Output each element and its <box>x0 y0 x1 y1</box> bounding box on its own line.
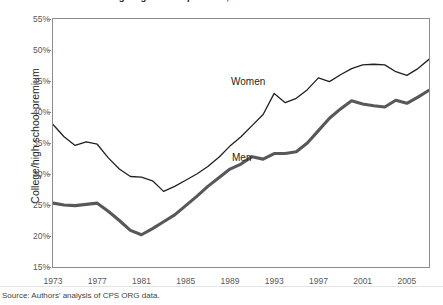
y-tick-mark <box>47 174 51 175</box>
y-tick-mark <box>47 205 51 206</box>
series-label-men: Men <box>232 152 251 163</box>
source-divider <box>0 286 443 287</box>
series-canvas <box>53 19 429 267</box>
y-tick-mark <box>47 81 51 82</box>
x-tick-label: 1981 <box>132 276 151 286</box>
y-tick-mark <box>47 236 51 237</box>
y-tick-label: 35% <box>4 138 50 148</box>
y-tick-label: 25% <box>4 200 50 210</box>
x-tick-label: 1973 <box>44 276 63 286</box>
y-tick-mark <box>47 267 51 268</box>
plot-area <box>52 18 430 268</box>
y-tick-mark <box>47 112 51 113</box>
x-tick-label: 2001 <box>353 276 372 286</box>
x-tick-label: 1997 <box>309 276 328 286</box>
source-note: Source: Authors' analysis of CPS ORG dat… <box>2 291 160 300</box>
y-tick-label: 15% <box>4 262 50 272</box>
y-tick-mark <box>47 143 51 144</box>
y-tick-label: 30% <box>4 169 50 179</box>
y-tick-mark <box>47 50 51 51</box>
y-tick-label: 40% <box>4 107 50 117</box>
chart-title: College/high school premium, 1973-2007 <box>96 0 396 2</box>
series-label-women: Women <box>231 76 265 87</box>
y-tick-label: 50% <box>4 45 50 55</box>
x-tick-label: 1993 <box>265 276 284 286</box>
x-tick-label: 1977 <box>88 276 107 286</box>
x-tick-label: 1985 <box>176 276 195 286</box>
chart-figure: College/high school premium, 1973-2007 C… <box>0 0 443 305</box>
x-tick-label: 1989 <box>220 276 239 286</box>
y-tick-mark <box>47 19 51 20</box>
y-axis-ticks: 15%20%25%30%35%40%45%50%55% <box>0 18 50 268</box>
y-tick-label: 55% <box>4 14 50 24</box>
x-tick-label: 2005 <box>397 276 416 286</box>
y-tick-label: 20% <box>4 231 50 241</box>
y-tick-label: 45% <box>4 76 50 86</box>
